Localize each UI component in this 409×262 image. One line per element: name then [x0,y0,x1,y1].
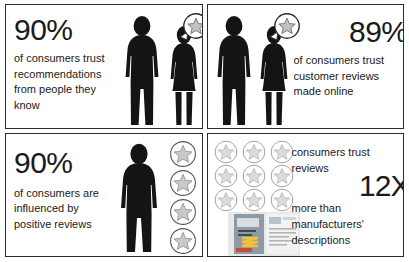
panel4-line-1: consumers trust [292,144,405,160]
star-badge-icon [166,227,200,255]
panel2-text-column: 89% of consumers trust customer reviews … [294,17,405,100]
panel2-line-2: customer reviews [294,69,405,85]
panel-trust-customer-reviews: 89% of consumers trust customer reviews … [207,4,405,129]
man-silhouette-icon [110,142,168,254]
star-badge-icon [212,140,240,164]
star-badge-icon [212,188,240,212]
panel4-line-4: manufacturers' [292,216,405,232]
star-badge-icon [166,169,200,197]
star-badge-icon [166,198,200,226]
man-silhouette-icon [217,16,250,125]
panel4-stat: 12X [292,174,405,198]
panel4-line-3: more than [292,200,405,216]
panel2-stat: 89% [294,17,405,47]
panel-trust-recommendations: 90% of consumers trust recommendations f… [5,4,203,129]
panel1-stat: 90% [14,15,134,45]
panel3-star-rating [166,140,200,255]
star-badge-icon [240,140,268,164]
star-badge-icon [240,164,268,188]
panel2-figures [212,13,304,129]
panel1-line-3: from people they [14,82,134,98]
panel4-line-5: descriptions [292,232,405,248]
panel3-figure [110,142,168,254]
woman-silhouette-icon [260,26,287,125]
star-badge-icon [166,140,200,168]
star-badge-icon [240,188,268,212]
star-speech-bubble-icon [180,14,203,40]
woman-silhouette-icon [171,26,198,125]
panel4-text-column: consumers trust reviews 12X more than ma… [292,144,405,248]
panel1-line-1: of consumers trust [14,51,134,67]
panel-reviews-vs-manufacturer: consumers trust reviews 12X more than ma… [207,133,405,258]
man-woman-star-bubble-group [212,13,304,129]
star-badge-icon [212,164,240,188]
panel1-line-2: recommendations [14,67,134,83]
infographic-container: 90% of consumers trust recommendations f… [5,4,404,257]
man-woman-star-bubble-group [118,13,203,129]
panel-influenced-positive-reviews: 90% of consumers are influenced by posit… [5,133,203,258]
man-silhouette-icon [126,16,159,125]
product-brochure-icon [228,212,300,256]
panel1-text-column: 90% of consumers trust recommendations f… [14,15,134,113]
panel2-line-3: made online [294,84,405,100]
panel4-star-grid [212,140,296,212]
panel1-line-4: know [14,98,134,114]
panel2-line-1: of consumers trust [294,53,405,69]
panel1-figures [118,13,203,129]
